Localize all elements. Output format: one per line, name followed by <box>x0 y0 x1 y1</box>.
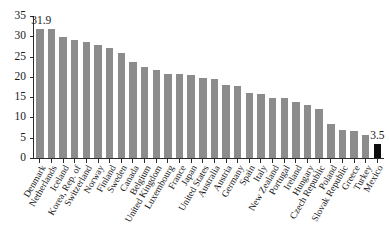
bar-slot <box>290 16 302 158</box>
bar-value-label: 3.5 <box>370 130 384 142</box>
bar-slot <box>220 16 232 158</box>
bar-slot <box>337 16 349 158</box>
bar <box>327 124 334 158</box>
bar-slot <box>104 16 116 158</box>
bar-slot <box>244 16 256 158</box>
bar-slot <box>185 16 197 158</box>
bar <box>129 62 136 158</box>
bar-slot <box>46 16 58 158</box>
bar <box>211 79 218 158</box>
bar-slot <box>255 16 267 158</box>
bar <box>292 102 299 158</box>
bar-slot <box>92 16 104 158</box>
bar-slot <box>69 16 81 158</box>
bar-slot <box>209 16 221 158</box>
bar-slot <box>115 16 127 158</box>
bar <box>187 75 194 158</box>
bar-slot <box>127 16 139 158</box>
bar <box>141 67 148 158</box>
bar <box>176 74 183 158</box>
bar-slot: 31.9 <box>34 16 46 158</box>
bar-slot <box>325 16 337 158</box>
x-label-slot: Mexico <box>372 163 384 241</box>
bar-slot <box>313 16 325 158</box>
bar <box>83 42 90 158</box>
y-tick-label: 30 <box>15 31 27 43</box>
bar <box>374 144 381 158</box>
bar <box>71 40 78 158</box>
bar-slot <box>232 16 244 158</box>
bar-series: 31.93.5 <box>34 16 383 158</box>
bar-slot <box>139 16 151 158</box>
bar <box>315 109 322 158</box>
bar <box>106 48 113 158</box>
bar-slot <box>57 16 69 158</box>
bar <box>304 105 311 158</box>
bar <box>59 37 66 158</box>
x-axis-labels: DenmarkNetherlandsIcelandKorea, Rep. ofS… <box>34 163 383 241</box>
bar-slot <box>197 16 209 158</box>
bar <box>48 29 55 158</box>
y-tick-label: 10 <box>15 112 27 124</box>
bar-slot <box>162 16 174 158</box>
bar-slot <box>174 16 186 158</box>
bar-slot <box>267 16 279 158</box>
bar <box>269 98 276 158</box>
y-tick-label: 25 <box>15 51 27 63</box>
bar <box>36 29 43 158</box>
bar-slot <box>302 16 314 158</box>
bar-slot <box>150 16 162 158</box>
bar-slot: 3.5 <box>372 16 384 158</box>
y-tick-label: 20 <box>15 71 27 83</box>
bar <box>222 85 229 158</box>
bar-chart: 05101520253035 31.93.5 DenmarkNetherland… <box>0 0 389 241</box>
bar <box>234 86 241 158</box>
bar <box>164 74 171 158</box>
bar <box>246 93 253 158</box>
bar-slot <box>278 16 290 158</box>
y-tick-label: 0 <box>20 152 26 164</box>
bar <box>118 53 125 158</box>
plot-area: 31.93.5 <box>34 16 383 158</box>
bar <box>94 45 101 158</box>
bar <box>153 70 160 158</box>
bar <box>257 94 264 158</box>
bar-slot <box>348 16 360 158</box>
bar <box>281 98 288 158</box>
y-tick-label: 35 <box>15 10 27 22</box>
y-tick-label: 5 <box>20 132 26 144</box>
bar <box>339 130 346 158</box>
bar <box>199 78 206 158</box>
bar <box>350 131 357 158</box>
bar <box>362 135 369 158</box>
y-tick-label: 15 <box>15 91 27 103</box>
bar-slot <box>81 16 93 158</box>
